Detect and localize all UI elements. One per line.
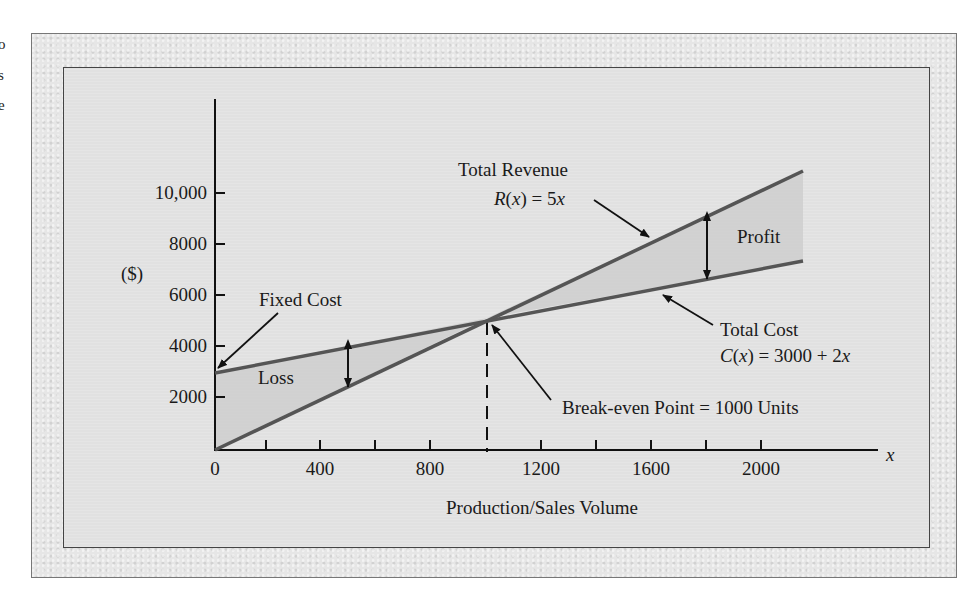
- y-tick-label: 2000: [127, 387, 207, 406]
- y-axis-label: ($): [121, 264, 143, 283]
- y-tick-label: 6000: [127, 285, 207, 304]
- y-tick-label: 10,000: [127, 183, 207, 202]
- y-tick-label: 4000: [127, 336, 207, 355]
- total-revenue-formula: R(x) = 5x: [494, 189, 565, 208]
- x-tick-label: 400: [280, 459, 360, 478]
- break-even-label: Break-even Point = 1000 Units: [562, 398, 799, 417]
- x-ticks: [266, 440, 761, 450]
- x-tick-label: 1600: [611, 459, 691, 478]
- total-cost-line: [215, 261, 803, 373]
- fixed-cost-arrow: [218, 313, 278, 368]
- total-cost-label: Total Cost: [720, 320, 798, 339]
- fixed-cost-label: Fixed Cost: [259, 290, 342, 309]
- total-revenue-label: Total Revenue: [458, 160, 568, 179]
- break-even-arrow: [492, 325, 551, 400]
- total-cost-formula: C(x) = 3000 + 2x: [720, 346, 850, 365]
- profit-label: Profit: [737, 227, 780, 246]
- x-tick-label: 1200: [501, 459, 581, 478]
- x-axis-label: Production/Sales Volume: [446, 498, 638, 517]
- x-axis-symbol: x: [886, 445, 894, 464]
- y-tick-label: 8000: [127, 234, 207, 253]
- total-cost-arrow: [663, 295, 713, 325]
- x-tick-label: 0: [175, 459, 255, 478]
- x-tick-label: 800: [390, 459, 470, 478]
- loss-label: Loss: [258, 368, 294, 387]
- total-revenue-arrow: [594, 200, 649, 237]
- x-tick-label: 2000: [721, 459, 801, 478]
